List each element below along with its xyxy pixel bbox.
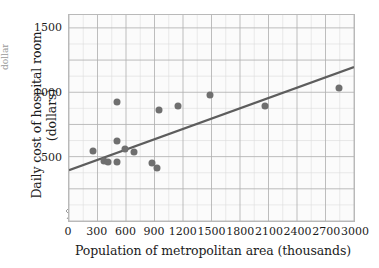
page-edge-text-fragment: dollars xyxy=(0,44,14,70)
y-axis-title: Daily cost of hospital room (dollars) xyxy=(29,15,47,215)
x-tick-label: 2400 xyxy=(284,225,312,238)
x-tick-label: 600 xyxy=(115,225,136,238)
x-tick-label: 1200 xyxy=(169,225,197,238)
data-point xyxy=(206,92,213,99)
x-tick-label: 1500 xyxy=(198,225,226,238)
x-tick-label: 1800 xyxy=(226,225,254,238)
grid-and-data-canvas xyxy=(69,15,354,221)
data-point xyxy=(113,158,120,165)
data-point xyxy=(105,159,112,166)
data-point xyxy=(131,149,138,156)
data-point xyxy=(155,106,162,113)
data-point xyxy=(122,145,129,152)
y-tick-label: 500 xyxy=(26,151,62,164)
data-point xyxy=(113,138,120,145)
data-point xyxy=(175,103,182,110)
x-tick-label: 2700 xyxy=(312,225,340,238)
data-point xyxy=(153,165,160,172)
y-tick-label: 1500 xyxy=(26,21,62,34)
data-point xyxy=(89,147,96,154)
x-tick-label: 3000 xyxy=(341,225,369,238)
x-tick-label: 900 xyxy=(144,225,165,238)
x-tick-label: 0 xyxy=(65,225,72,238)
data-point xyxy=(113,99,120,106)
x-tick-label: 300 xyxy=(86,225,107,238)
plot-area xyxy=(68,14,355,222)
data-point xyxy=(262,103,269,110)
data-point xyxy=(335,85,342,92)
x-axis-title: Population of metropolitan area (thousan… xyxy=(68,243,358,258)
x-tick-label: 2100 xyxy=(255,225,283,238)
scatter-plot-figure: dollars Daily cost of hospital room (dol… xyxy=(0,0,379,268)
y-tick-label: 1000 xyxy=(26,86,62,99)
